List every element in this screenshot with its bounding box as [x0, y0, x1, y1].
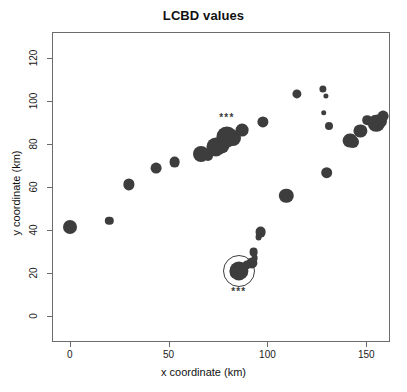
x-axis-tick: [70, 342, 71, 347]
x-axis-tick-label: 100: [259, 349, 276, 360]
y-axis-tick: [47, 273, 52, 274]
x-axis-title: x coordinate (km): [0, 366, 407, 378]
y-axis-tick: [47, 187, 52, 188]
y-axis-tick-label: 60: [28, 176, 39, 198]
plot-area-frame: [52, 32, 390, 342]
chart-title: LCBD values: [0, 8, 407, 23]
y-axis-tick: [47, 316, 52, 317]
y-axis-tick-label: 80: [28, 133, 39, 155]
x-axis-tick: [267, 342, 268, 347]
y-axis-tick: [47, 101, 52, 102]
y-axis-tick-label: 20: [28, 262, 39, 284]
y-axis-title: y coordinate (km): [10, 123, 22, 263]
x-axis-tick-label: 50: [163, 349, 174, 360]
y-axis-tick: [47, 230, 52, 231]
y-axis-tick-label: 100: [28, 90, 39, 112]
x-axis-tick-label: 150: [358, 349, 375, 360]
x-axis-tick: [169, 342, 170, 347]
y-axis-tick-label: 120: [28, 47, 39, 69]
y-axis-tick-label: 40: [28, 219, 39, 241]
chart-figure: LCBD values ****** 050100150020406080100…: [0, 0, 407, 392]
y-axis-tick: [47, 58, 52, 59]
x-axis-tick-label: 0: [67, 349, 73, 360]
y-axis-tick: [47, 144, 52, 145]
y-axis-tick-label: 0: [28, 305, 39, 327]
x-axis-tick: [366, 342, 367, 347]
